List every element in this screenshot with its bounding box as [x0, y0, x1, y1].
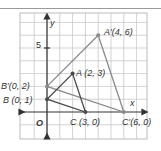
label-a-prime: A′(4, 6): [103, 27, 133, 37]
label-c-prime: C′(6, 0): [122, 117, 151, 127]
label-b: B (0, 1): [3, 95, 33, 105]
label-b-prime: B′(0, 2): [1, 81, 30, 91]
x-axis-label: x: [129, 98, 135, 108]
coordinate-plane: y x 5 O A′(4, 6) B′(0, 2) C′(6, 0) A (2,…: [0, 0, 161, 151]
y-axis-label: y: [49, 18, 55, 28]
y-tick-5: 5: [36, 40, 41, 50]
origin-label: O: [36, 118, 43, 128]
label-a: A (2, 3): [75, 68, 105, 78]
label-c: C (3, 0): [70, 117, 100, 127]
